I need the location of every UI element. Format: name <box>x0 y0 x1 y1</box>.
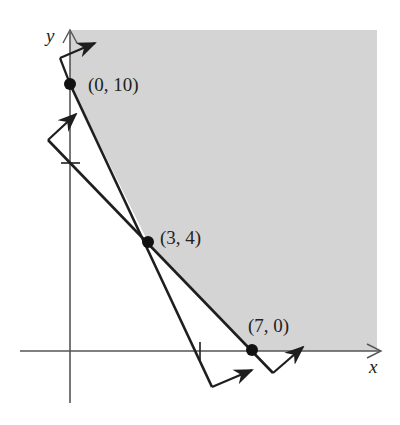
vertex-point-7-0 <box>246 344 258 356</box>
vertex-point-0-10 <box>64 78 76 90</box>
vertex-point-3-4 <box>142 236 154 248</box>
constraint-line-2-upper-normal <box>48 114 76 140</box>
vertex-label-7-0: (7, 0) <box>248 315 289 337</box>
feasible-region-diagram: (0, 10) (3, 4) (7, 0) y x <box>0 0 400 425</box>
constraint-line-1-lower-normal <box>212 370 252 387</box>
vertex-label-0-10: (0, 10) <box>88 74 139 96</box>
x-axis-label: x <box>368 356 378 377</box>
y-axis-label: y <box>44 25 55 46</box>
vertex-label-3-4: (3, 4) <box>160 227 201 249</box>
